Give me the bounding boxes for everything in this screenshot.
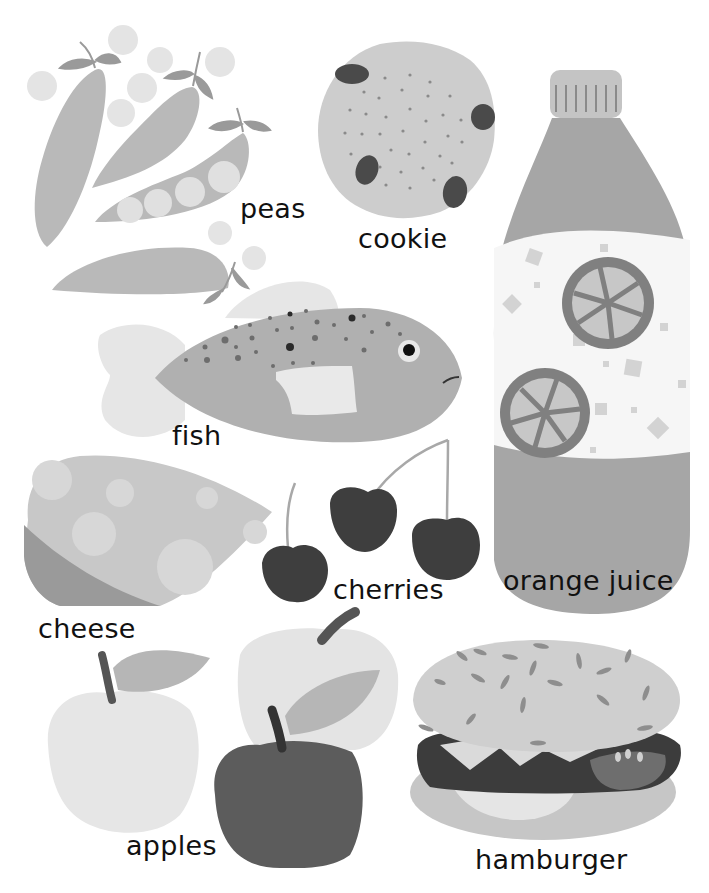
label-peas: peas <box>240 195 306 222</box>
label-cherries: cherries <box>333 576 444 603</box>
orange-juice-illustration <box>494 70 690 614</box>
label-cookie: cookie <box>358 225 447 252</box>
hamburger-illustration <box>410 640 681 840</box>
cookie-illustration <box>318 41 495 218</box>
label-apples: apples <box>126 832 217 859</box>
food-illustrations <box>0 0 709 893</box>
cheese-illustration <box>24 455 272 606</box>
peas-illustration <box>27 25 270 303</box>
label-orange-juice: orange juice <box>503 567 674 594</box>
label-fish: fish <box>172 422 221 449</box>
label-hamburger: hamburger <box>475 846 627 873</box>
fish-illustration <box>98 282 462 443</box>
label-cheese: cheese <box>38 615 136 642</box>
apples-illustration <box>48 612 398 868</box>
